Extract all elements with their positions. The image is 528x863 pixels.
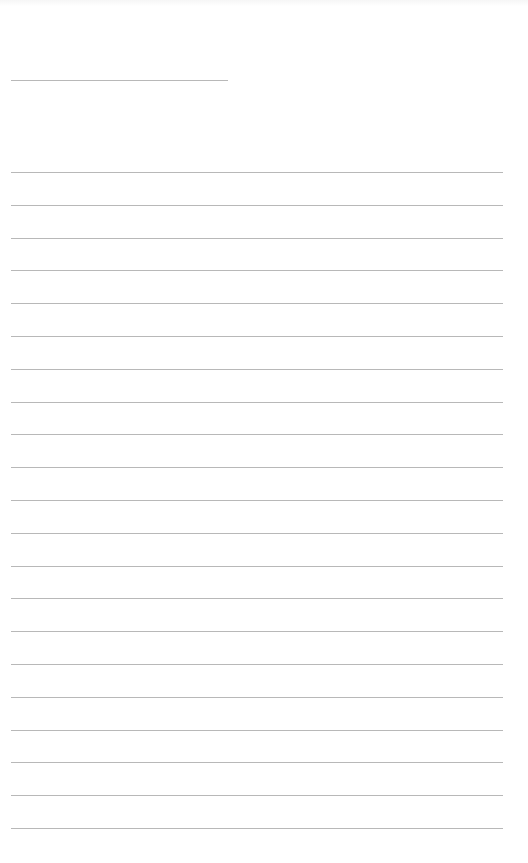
ruled-line [11, 369, 503, 370]
ruled-line [11, 303, 503, 304]
top-edge-shadow [0, 0, 528, 6]
ruled-line [11, 336, 503, 337]
header-write-line [11, 80, 228, 81]
ruled-line [11, 730, 503, 731]
ruled-line [11, 762, 503, 763]
ruled-line [11, 664, 503, 665]
ruled-line [11, 631, 503, 632]
ruled-line [11, 434, 503, 435]
ruled-line [11, 795, 503, 796]
ruled-line [11, 828, 503, 829]
ruled-line [11, 598, 503, 599]
ruled-line [11, 467, 503, 468]
ruled-line [11, 172, 503, 173]
lined-page [0, 0, 528, 863]
ruled-line [11, 697, 503, 698]
ruled-line [11, 402, 503, 403]
ruled-line [11, 270, 503, 271]
ruled-line [11, 238, 503, 239]
ruled-line [11, 205, 503, 206]
ruled-line [11, 500, 503, 501]
ruled-line [11, 566, 503, 567]
ruled-line [11, 533, 503, 534]
